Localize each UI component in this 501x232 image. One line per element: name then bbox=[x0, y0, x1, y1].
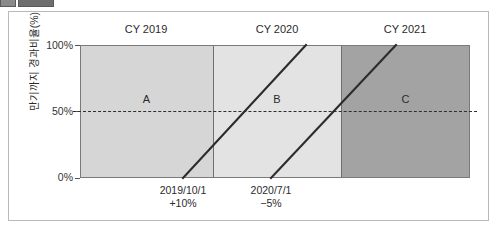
event-2-rate: −5% bbox=[251, 197, 292, 210]
y-tick-label-50: 50% bbox=[23, 105, 73, 117]
event-1-rate: +10% bbox=[160, 197, 207, 210]
figure-card: CY 2019 CY 2020 CY 2021 만기까지 경과비율(%) 100… bbox=[8, 11, 489, 221]
period-header-cy2021: CY 2021 bbox=[384, 23, 427, 35]
reference-line-50-percent bbox=[73, 111, 477, 112]
event-2-date: 2020/7/1 bbox=[251, 184, 292, 196]
y-tick-mark-0 bbox=[75, 178, 80, 179]
y-tick-label-100: 100% bbox=[23, 39, 73, 51]
event-annotation-2: 2020/7/1 −5% bbox=[251, 184, 292, 210]
event-1-date: 2019/10/1 bbox=[160, 184, 207, 196]
region-c-label: C bbox=[401, 93, 409, 105]
period-header-cy2019: CY 2019 bbox=[125, 23, 168, 35]
region-b-label: B bbox=[273, 93, 281, 105]
toolbar-chip-left bbox=[0, 0, 16, 7]
region-a-label: A bbox=[143, 93, 151, 105]
event-annotation-1: 2019/10/1 +10% bbox=[160, 184, 207, 210]
period-header-cy2020: CY 2020 bbox=[256, 23, 299, 35]
y-tick-label-0: 0% bbox=[23, 171, 73, 183]
y-axis-title: 만기까지 경과비율(%) bbox=[26, 2, 41, 122]
